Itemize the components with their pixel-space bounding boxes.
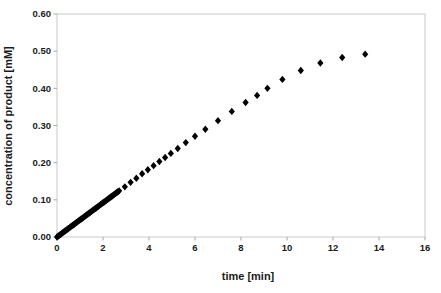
y-tick-label: 0.00 xyxy=(33,231,52,242)
y-axis-ticks xyxy=(54,14,58,237)
y-axis-tick-labels: 0.000.100.200.300.400.500.60 xyxy=(33,8,52,242)
y-tick-label: 0.20 xyxy=(33,157,52,168)
y-tick-label: 0.40 xyxy=(33,83,52,94)
x-tick-label: 8 xyxy=(238,242,243,253)
x-tick-label: 14 xyxy=(374,242,385,253)
kinetics-progress-chart: 0.000.100.200.300.400.500.60 02468101214… xyxy=(0,0,441,293)
plot-area xyxy=(57,14,425,237)
x-axis-title: time [min] xyxy=(222,270,275,282)
x-tick-label: 6 xyxy=(192,242,197,253)
y-tick-label: 0.60 xyxy=(33,8,52,19)
x-tick-label: 2 xyxy=(100,242,105,253)
y-axis-title: concentration of product [mM] xyxy=(2,46,14,206)
x-tick-label: 16 xyxy=(420,242,431,253)
scatter-chart-canvas: 0.000.100.200.300.400.500.60 02468101214… xyxy=(0,0,441,293)
y-tick-label: 0.10 xyxy=(33,194,52,205)
x-tick-label: 12 xyxy=(328,242,339,253)
x-axis-ticks xyxy=(57,237,425,241)
x-axis-tick-labels: 0246810121416 xyxy=(54,242,430,253)
x-tick-label: 4 xyxy=(146,242,152,253)
y-tick-label: 0.50 xyxy=(33,45,52,56)
x-tick-label: 10 xyxy=(282,242,293,253)
y-tick-label: 0.30 xyxy=(33,120,52,131)
x-tick-label: 0 xyxy=(54,242,59,253)
